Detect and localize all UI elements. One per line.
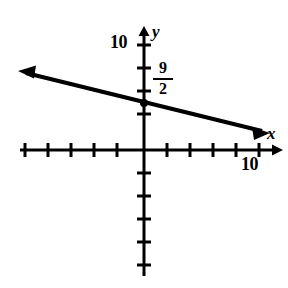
x-axis-arrowhead-icon <box>272 145 283 156</box>
y-axis-max-tick-label: 10 <box>110 33 127 51</box>
y-axis-arrowhead-icon <box>139 26 150 36</box>
fraction-denominator: 2 <box>152 81 174 98</box>
graph-figure: y x 10 10 9 2 <box>0 0 288 288</box>
fraction-numerator: 9 <box>152 60 174 77</box>
coordinate-plane-svg <box>0 0 288 288</box>
y-axis-label: y <box>152 23 160 40</box>
y-intercept-point <box>140 99 148 107</box>
y-intercept-fraction-label: 9 2 <box>152 60 174 98</box>
x-axis-max-tick-label: 10 <box>241 155 258 173</box>
x-axis-label: x <box>267 125 276 142</box>
line-left-arrowhead-icon <box>18 66 36 79</box>
